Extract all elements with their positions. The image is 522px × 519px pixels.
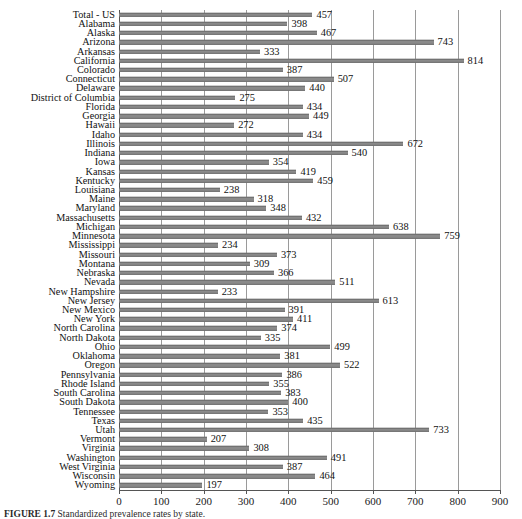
- bar: [119, 123, 234, 127]
- figure-caption: FIGURE 1.7 Standardized prevalence rates…: [4, 509, 518, 519]
- bar-row: Kentucky459: [119, 176, 500, 185]
- bar: [119, 372, 282, 376]
- x-tick-200: [204, 490, 205, 494]
- bar-row: South Carolina383: [119, 388, 500, 397]
- bar-row: Missouri373: [119, 250, 500, 259]
- bar: [119, 151, 348, 155]
- figure-caption-label: FIGURE 1.7: [4, 509, 55, 519]
- bar: [119, 474, 315, 478]
- bar: [119, 206, 266, 210]
- bar: [119, 49, 260, 53]
- bar: [119, 197, 254, 201]
- bar-row: North Dakota335: [119, 333, 500, 342]
- bar-row: New Jersey613: [119, 296, 500, 305]
- bar: [119, 234, 440, 238]
- bar-row: Florida434: [119, 102, 500, 111]
- bar-row: Nevada511: [119, 278, 500, 287]
- x-tick-800: [458, 490, 459, 494]
- bar-row: Minnesota759: [119, 232, 500, 241]
- x-tick-label-300: 300: [238, 495, 255, 507]
- bar-row: Pennsylvania386: [119, 370, 500, 379]
- bar-row: South Dakota400: [119, 398, 500, 407]
- bar-row: Utah733: [119, 425, 500, 434]
- bar-row: New York411: [119, 315, 500, 324]
- bar-chart-plot-area: Total - US457Alabama398Alaska467Arizona7…: [119, 10, 500, 490]
- bar: [119, 59, 464, 63]
- x-tick-900: [500, 490, 501, 494]
- bar-row: Virginia308: [119, 444, 500, 453]
- bar: [119, 22, 287, 26]
- bar: [119, 215, 302, 219]
- bar: [119, 317, 293, 321]
- bar-row: Oklahoma381: [119, 352, 500, 361]
- bar: [119, 225, 389, 229]
- x-tick-label-100: 100: [153, 495, 170, 507]
- figure-container: Total - US457Alabama398Alaska467Arizona7…: [0, 0, 522, 519]
- bar-row: Kansas419: [119, 167, 500, 176]
- bar-row: West Virginia387: [119, 462, 500, 471]
- x-tick-0: [119, 490, 120, 494]
- bar: [119, 243, 218, 247]
- bar-row: Wyoming197: [119, 481, 500, 490]
- bar: [119, 326, 277, 330]
- bar: [119, 68, 283, 72]
- bar-row: Arkansas333: [119, 47, 500, 56]
- bar: [119, 12, 312, 16]
- bar-row: Vermont207: [119, 435, 500, 444]
- bar-row: California814: [119, 56, 500, 65]
- bar: [119, 142, 403, 146]
- bar-row: Colorado387: [119, 65, 500, 74]
- x-tick-label-600: 600: [365, 495, 382, 507]
- bar: [119, 289, 218, 293]
- bar: [119, 299, 379, 303]
- bar: [119, 280, 335, 284]
- x-tick-400: [288, 490, 289, 494]
- x-tick-label-800: 800: [449, 495, 466, 507]
- bar: [119, 252, 277, 256]
- bar-row: Montana309: [119, 259, 500, 268]
- bar-row: Alabama398: [119, 19, 500, 28]
- bar-row: Idaho434: [119, 130, 500, 139]
- bar: [119, 437, 207, 441]
- bar-row: Indiana540: [119, 148, 500, 157]
- bar-row: Rhode Island355: [119, 379, 500, 388]
- x-axis-line: [119, 490, 501, 491]
- bar-row: Georgia449: [119, 112, 500, 121]
- bar-row: Ohio499: [119, 342, 500, 351]
- bar: [119, 483, 202, 487]
- bar-row: Delaware440: [119, 84, 500, 93]
- gridline-900: [500, 10, 501, 490]
- bar-row: New Hampshire233: [119, 287, 500, 296]
- bar: [119, 345, 330, 349]
- bar: [119, 465, 283, 469]
- bar: [119, 31, 317, 35]
- bar: [119, 409, 268, 413]
- bar-row: Arizona743: [119, 38, 500, 47]
- bar-row: Oregon522: [119, 361, 500, 370]
- bar: [119, 77, 334, 81]
- bar: [119, 382, 269, 386]
- bar: [119, 86, 305, 90]
- bar: [119, 400, 288, 404]
- bar-row: North Carolina374: [119, 324, 500, 333]
- bar: [119, 308, 285, 312]
- bar: [119, 455, 327, 459]
- bar-row: Maine318: [119, 195, 500, 204]
- bar: [119, 105, 303, 109]
- x-tick-label-900: 900: [492, 495, 509, 507]
- bar: [119, 391, 281, 395]
- bar-row: Wisconsin464: [119, 472, 500, 481]
- bar: [119, 188, 220, 192]
- x-tick-label-0: 0: [116, 495, 122, 507]
- bar-row: Michigan638: [119, 222, 500, 231]
- bar: [119, 428, 429, 432]
- bar: [119, 169, 296, 173]
- bar: [119, 271, 274, 275]
- x-tick-label-700: 700: [407, 495, 424, 507]
- bar-row: Illinois672: [119, 139, 500, 148]
- bar: [119, 160, 269, 164]
- figure-caption-text: Standardized prevalence rates by state.: [58, 509, 205, 519]
- bar: [119, 335, 261, 339]
- x-tick-700: [415, 490, 416, 494]
- bar-row: Total - US457: [119, 10, 500, 19]
